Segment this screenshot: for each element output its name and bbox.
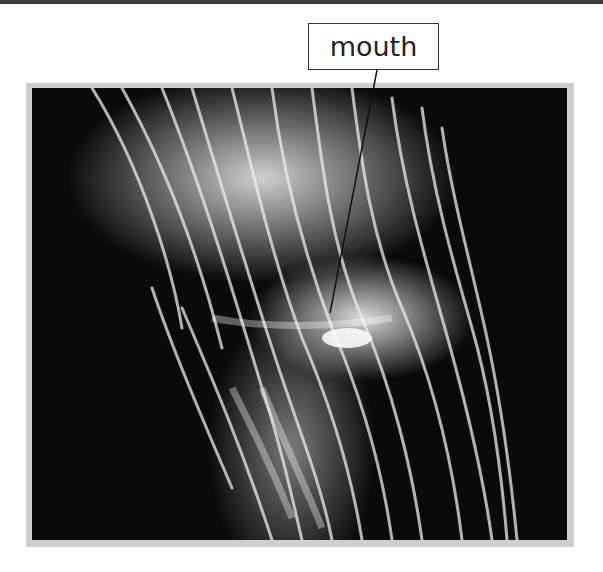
mouth-pointer-line [0, 0, 603, 572]
mouth-label: mouth [308, 23, 439, 70]
mouth-label-text: mouth [330, 31, 418, 62]
